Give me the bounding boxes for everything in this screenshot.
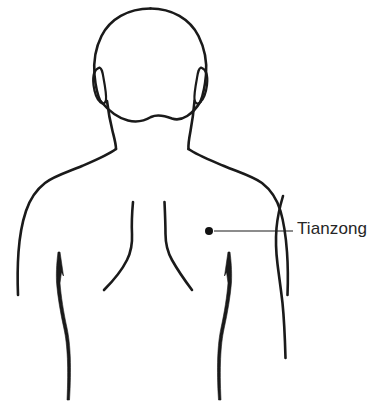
acupoint-marker-tianzong[interactable] <box>205 227 213 235</box>
shoulder-arm-right <box>189 149 288 295</box>
scapula-line-right <box>165 202 193 290</box>
head-outline <box>94 9 150 102</box>
head-outline-right <box>151 9 207 102</box>
torso-side-left <box>56 252 70 400</box>
torso-side-right <box>217 252 231 400</box>
neck-right <box>188 101 194 149</box>
scapula-line-left <box>104 202 133 290</box>
shoulder-arm-left <box>18 149 116 295</box>
acupoint-label-tianzong: Tianzong <box>297 219 367 239</box>
neck-left <box>107 101 116 149</box>
hairline-curve <box>101 102 201 122</box>
